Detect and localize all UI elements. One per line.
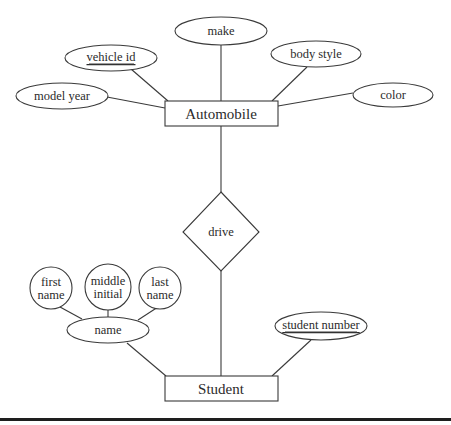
attribute-middle-initial-line1: middle [91, 274, 126, 288]
connector-first-name [60, 307, 82, 319]
attribute-last-name-line1: last [151, 275, 169, 289]
attribute-student-number-label: student number [282, 318, 360, 332]
relationship-drive-label: drive [208, 225, 234, 239]
connector-vehicle-id [131, 69, 168, 101]
attribute-first-name: first name [30, 267, 72, 309]
bottom-rule [0, 418, 451, 421]
attribute-first-name-line2: name [37, 288, 65, 302]
attribute-student-number: student number [275, 312, 367, 340]
attribute-last-name: last name [139, 267, 181, 309]
attribute-middle-initial: middle initial [85, 264, 131, 310]
attribute-first-name-line1: first [41, 275, 62, 289]
attribute-color-label: color [380, 88, 407, 102]
attribute-middle-initial-line2: initial [93, 287, 123, 301]
attribute-last-name-line2: name [146, 288, 174, 302]
attribute-vehicle-id: vehicle id [65, 45, 157, 71]
entity-automobile-label: Automobile [185, 106, 257, 122]
attribute-vehicle-id-label: vehicle id [87, 50, 137, 64]
attribute-body-style-label: body style [290, 47, 342, 61]
attribute-model-year-label: model year [34, 89, 91, 103]
connector-body-style [272, 67, 307, 101]
attribute-make: make [175, 17, 267, 45]
attribute-name: name [67, 317, 149, 343]
relationship-drive: drive [183, 192, 259, 271]
entity-automobile: Automobile [165, 101, 278, 126]
attribute-color: color [353, 83, 433, 107]
attribute-model-year: model year [16, 83, 108, 109]
entity-student: Student [165, 376, 278, 401]
attribute-name-label: name [94, 323, 122, 337]
connector-name [127, 343, 166, 376]
er-diagram: model year vehicle id make body style co… [0, 0, 451, 425]
connector-color [278, 93, 353, 106]
attribute-make-label: make [207, 24, 235, 38]
entity-student-label: Student [198, 381, 245, 397]
connector-model-year [107, 97, 165, 108]
connector-student-number [272, 340, 311, 376]
attribute-body-style: body style [271, 41, 361, 67]
